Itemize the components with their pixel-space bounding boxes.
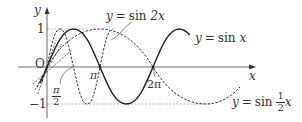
label-sin-half-x-arg: x (285, 95, 292, 109)
origin-label: O (35, 58, 45, 70)
two-pi-point (152, 66, 155, 69)
leader-half-pi (60, 67, 73, 84)
y-axis-arrow-icon (45, 7, 50, 14)
origin-point (46, 66, 49, 69)
pi-point (99, 66, 102, 69)
tick-two-pi: 2π (147, 79, 161, 90)
label-sin-2x-fn: sin (129, 9, 147, 23)
label-sin-half-x-fn: sin (255, 95, 273, 109)
curve-sin-2x (42, 29, 166, 104)
label-sin-x-eq: = (205, 31, 215, 45)
curve-sin-x (40, 29, 190, 104)
tick-y-one: 1 (37, 23, 45, 35)
tick-y-minus-one: −1 (29, 98, 47, 110)
x-axis-label: x (249, 70, 256, 82)
label-sin-half-x-y: y (232, 95, 239, 109)
label-sin-2x: y=sin 2x (106, 10, 165, 22)
label-sin-half-x: y=sin 12x (232, 91, 292, 113)
label-sin-2x-arg: 2x (150, 9, 164, 23)
half-pi-denominator: 2 (52, 97, 61, 108)
half-pi-numerator: π (52, 85, 61, 97)
tick-half-pi: π2 (52, 85, 61, 107)
label-sin-half-x-eq: = (242, 95, 252, 109)
label-sin-x: y=sin x (195, 32, 246, 44)
tick-pi: π (90, 70, 97, 81)
label-sin-x-fn: sin (218, 31, 236, 45)
label-sin-half-x-num: 1 (276, 91, 284, 103)
label-sin-x-arg: x (239, 31, 246, 45)
label-sin-2x-eq: = (116, 9, 126, 23)
sine-graph-figure: y x O 1 −1 π 2π π2 y=sin 2x y=sin x y=si… (0, 0, 302, 122)
label-sin-2x-y: y (106, 9, 113, 23)
label-sin-half-x-den: 2 (276, 103, 284, 114)
y-axis-label: y (34, 4, 41, 16)
label-sin-x-y: y (195, 31, 202, 45)
